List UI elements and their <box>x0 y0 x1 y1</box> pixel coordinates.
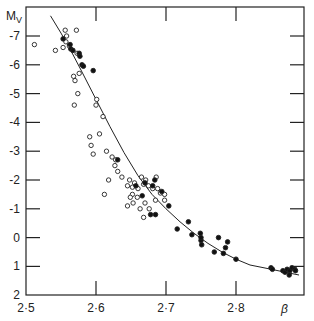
open-data-point <box>106 178 110 182</box>
filled-data-point <box>140 194 145 199</box>
open-data-point <box>97 132 101 136</box>
filled-data-point <box>153 212 158 217</box>
fitted-curve <box>51 16 300 275</box>
y-tick-label: -4 <box>9 115 20 129</box>
y-tick-label: -1 <box>9 202 20 216</box>
y-axis-label: MV <box>6 9 22 25</box>
open-data-point <box>138 207 142 211</box>
open-data-point <box>116 169 120 173</box>
y-tick-label: -5 <box>9 87 20 101</box>
open-data-point <box>89 143 93 147</box>
filled-data-point <box>91 68 96 73</box>
x-axis-label: β <box>280 302 288 316</box>
open-data-point <box>120 175 124 179</box>
filled-data-point <box>78 54 83 59</box>
filled-data-point <box>223 245 228 250</box>
y-tick-label: 0 <box>13 231 20 245</box>
open-data-point <box>102 192 106 196</box>
data-points <box>32 28 298 277</box>
open-data-point <box>153 198 157 202</box>
x-tick-label: 2·7 <box>157 301 175 315</box>
filled-data-point <box>175 227 180 232</box>
filled-data-point <box>199 235 204 240</box>
filled-data-point <box>81 64 86 69</box>
open-data-point <box>61 45 65 49</box>
y-tick-label: -7 <box>9 29 20 43</box>
filled-data-point <box>190 232 195 237</box>
filled-data-point <box>61 37 66 42</box>
filled-data-point <box>186 220 191 225</box>
filled-data-point <box>225 240 230 245</box>
filled-data-point <box>270 267 275 272</box>
y-tick-label: -3 <box>9 144 20 158</box>
y-tick-label: -6 <box>9 58 20 72</box>
filled-data-point <box>115 158 120 163</box>
open-data-point <box>113 163 117 167</box>
y-tick-label: 2 <box>13 288 20 302</box>
filled-data-point <box>160 189 165 194</box>
filled-data-point <box>150 184 155 189</box>
open-data-point <box>72 103 76 107</box>
open-data-point <box>94 103 98 107</box>
open-data-point <box>125 184 129 188</box>
open-data-point <box>139 175 143 179</box>
open-data-point <box>162 198 166 202</box>
filled-data-point <box>143 181 148 186</box>
filled-data-point <box>293 268 298 273</box>
filled-data-point <box>198 231 203 236</box>
x-tick-label: 2·5 <box>17 301 35 315</box>
x-tick-label: 2·8 <box>227 301 245 315</box>
open-data-point <box>127 178 131 182</box>
open-data-point <box>88 135 92 139</box>
open-data-point <box>74 28 78 32</box>
axis-ticks <box>26 7 304 295</box>
open-data-point <box>155 186 159 190</box>
filled-data-point <box>71 48 76 53</box>
open-data-point <box>128 195 132 199</box>
open-data-point <box>91 152 95 156</box>
open-data-point <box>76 91 80 95</box>
open-data-point <box>141 215 145 219</box>
open-data-point <box>53 48 57 52</box>
filled-data-point <box>153 178 158 183</box>
filled-data-point <box>212 250 217 255</box>
open-data-point <box>131 201 135 205</box>
filled-data-point <box>68 42 73 47</box>
open-data-point <box>101 114 105 118</box>
x-tick-label: 2·6 <box>87 301 105 315</box>
open-data-point <box>63 28 67 32</box>
open-data-point <box>125 204 129 208</box>
filled-data-point <box>167 204 172 209</box>
filled-data-point <box>199 243 204 248</box>
open-data-point <box>71 74 75 78</box>
open-data-point <box>135 195 139 199</box>
open-data-point <box>77 71 81 75</box>
y-tick-label: -2 <box>9 173 20 187</box>
filled-data-point <box>148 212 153 217</box>
plot-frame <box>26 7 304 295</box>
y-tick-label: 1 <box>13 259 20 273</box>
open-data-point <box>32 42 36 46</box>
open-data-point <box>73 78 77 82</box>
filled-data-point <box>287 273 292 278</box>
open-data-point <box>147 207 151 211</box>
hr-diagram-chart: 2·52·62·72·8-7-6-5-4-3-2-1012MVβ <box>0 0 314 321</box>
open-data-point <box>104 149 108 153</box>
filled-data-point <box>221 251 226 256</box>
axis-labels: 2·52·62·72·8-7-6-5-4-3-2-1012MVβ <box>6 9 288 316</box>
filled-data-point <box>234 257 239 262</box>
filled-data-point <box>216 235 221 240</box>
open-data-point <box>95 97 99 101</box>
filled-data-point <box>134 184 139 189</box>
open-data-point <box>143 201 147 205</box>
